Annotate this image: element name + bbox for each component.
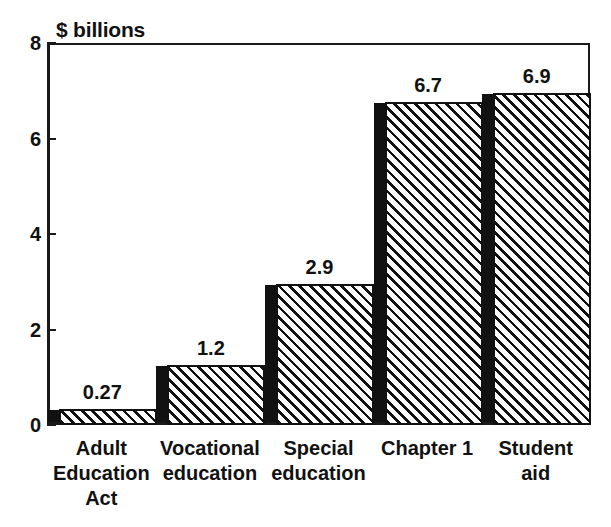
- bar-front-face: [59, 409, 157, 425]
- x-axis-category-label-line: Act: [31, 486, 172, 511]
- bar-value-label: 2.9: [245, 257, 394, 277]
- bar: [156, 364, 265, 425]
- bar-side-face: [265, 285, 276, 422]
- bar-side-face: [48, 410, 59, 422]
- x-axis-category-label: Studentaid: [465, 436, 606, 486]
- bar-front-face: [385, 102, 483, 425]
- bar: [374, 101, 483, 425]
- bar-front-face: [167, 365, 265, 425]
- bar: [48, 408, 157, 425]
- x-axis-category-label-line: education: [248, 461, 389, 486]
- x-axis-category-label-line: aid: [465, 461, 606, 486]
- bars-layer: 0.27AdultEducationAct1.2Vocationaleducat…: [0, 0, 611, 527]
- bar-chart: $ billions 02468 0.27AdultEducationAct1.…: [0, 0, 611, 527]
- bar-front-face: [493, 93, 591, 425]
- bar-side-face: [374, 103, 385, 422]
- bar: [265, 283, 374, 425]
- bar-value-label: 0.27: [28, 382, 177, 402]
- bar-side-face: [156, 366, 167, 422]
- bar: [482, 92, 591, 425]
- bar-front-face: [276, 284, 374, 425]
- bar-side-face: [482, 94, 493, 422]
- bar-value-label: 6.9: [462, 66, 611, 86]
- x-axis-category-label-line: Student: [465, 436, 606, 461]
- bar-value-label: 1.2: [136, 338, 285, 358]
